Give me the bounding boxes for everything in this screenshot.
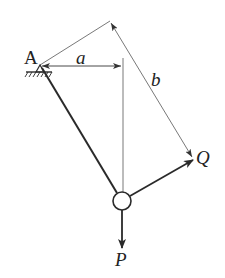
- label-force-q: Q: [196, 148, 210, 167]
- mechanics-diagram: [0, 0, 225, 278]
- label-dimension-a: a: [76, 48, 86, 67]
- ring-joint-icon: [113, 192, 131, 210]
- rod: [42, 68, 117, 193]
- label-dimension-b: b: [151, 70, 161, 89]
- force-q-arrow: [130, 160, 193, 196]
- label-force-p: P: [115, 250, 127, 269]
- construction-line: [40, 21, 110, 65]
- label-a-point: A: [24, 48, 38, 67]
